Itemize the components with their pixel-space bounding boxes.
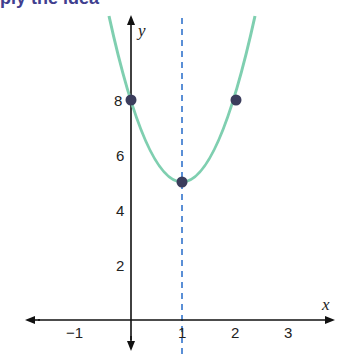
point-vertex: [177, 177, 188, 188]
y-axis-label: y: [136, 21, 146, 40]
y-tick-6: 6: [116, 147, 124, 164]
x-tick-1: 1: [178, 324, 186, 341]
point-symmetric: [231, 95, 242, 106]
y-tick-8: 8: [114, 92, 122, 109]
x-tick-3: 3: [284, 324, 292, 341]
y-tick-2: 2: [116, 257, 124, 274]
x-axis-label: x: [321, 295, 330, 314]
parabola-chart: −1 1 2 3 2 4 6 8 x y: [0, 0, 361, 355]
x-tick-2: 2: [231, 324, 239, 341]
point-y-intercept: [126, 95, 137, 106]
y-tick-4: 4: [116, 202, 124, 219]
x-tick-neg1: −1: [66, 324, 83, 341]
